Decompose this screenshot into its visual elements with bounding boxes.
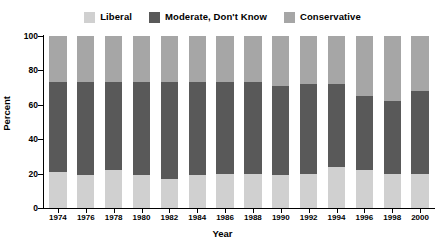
bar-1978 [105,36,122,208]
y-axis-tick [38,208,43,209]
bar-segment [189,82,206,175]
bar-segment [300,84,317,173]
y-axis-tick-labels: 020406080100 [4,0,38,251]
legend-item: Liberal [84,12,132,23]
bar-segment [161,36,178,82]
legend-swatch-icon [149,12,160,23]
stacked-bar-chart: LiberalModerate, Don't KnowConservative … [0,0,445,251]
y-axis-tick [38,105,43,106]
bar-segment [411,91,428,174]
bar-1982 [161,36,178,208]
bar-segment [189,175,206,208]
bar-segment [328,84,345,167]
y-axis-tick-label: 80 [8,66,38,75]
bar-segment [161,82,178,178]
bar-segment [356,170,373,208]
bar-segment [77,36,94,82]
y-axis-tick [38,36,43,37]
chart-legend: LiberalModerate, Don't KnowConservative [0,6,445,28]
bar-segment [356,36,373,96]
bar-segment [133,36,150,82]
bar-segment [216,36,233,82]
bar-1994 [328,36,345,208]
bar-segment [272,175,289,208]
bar-segment [105,36,122,82]
legend-item-label: Liberal [100,12,132,22]
bar-segment [300,174,317,208]
y-axis-tick-label: 40 [8,135,38,144]
bar-1998 [384,36,401,208]
bar-segment [49,82,66,171]
legend-swatch-icon [84,12,95,23]
bar-segment [272,36,289,86]
bar-segment [384,101,401,173]
bar-segment [49,36,66,82]
legend-item: Moderate, Don't Know [149,12,267,23]
bar-segment [189,36,206,82]
bar-1976 [77,36,94,208]
bar-segment [244,174,261,208]
bar-segment [300,36,317,84]
bar-segment [216,82,233,173]
y-axis-tick [38,70,43,71]
bar-segment [356,96,373,170]
bar-1996 [356,36,373,208]
legend-item: Conservative [284,12,361,23]
y-axis-tick [38,174,43,175]
bar-segment [161,179,178,208]
y-axis-tick [38,139,43,140]
bar-segment [133,82,150,175]
legend-item-label: Conservative [300,12,361,22]
bar-segment [105,170,122,208]
bar-segment [133,175,150,208]
plot-area [44,36,434,208]
bar-1980 [133,36,150,208]
bar-segment [105,82,122,170]
bar-segment [244,36,261,82]
bar-1986 [216,36,233,208]
x-axis-line [43,208,435,209]
bar-1988 [244,36,261,208]
bar-1974 [49,36,66,208]
bar-segment [216,174,233,208]
bar-1984 [189,36,206,208]
bar-segment [411,36,428,91]
bar-segment [77,175,94,208]
bar-segment [411,174,428,208]
bar-segment [49,172,66,208]
y-axis-tick-label: 60 [8,101,38,110]
x-axis-tick-label: 2000 [403,214,437,222]
bar-segment [328,167,345,208]
bar-segment [384,174,401,208]
y-axis-tick-label: 20 [8,170,38,179]
y-axis-tick-label: 100 [8,32,38,41]
x-axis-title: Year [0,229,445,239]
bar-segment [244,82,261,173]
bar-1990 [272,36,289,208]
bar-segment [77,82,94,175]
bar-segment [384,36,401,101]
bar-2000 [411,36,428,208]
legend-swatch-icon [284,12,295,23]
legend-item-label: Moderate, Don't Know [165,12,267,22]
bar-1992 [300,36,317,208]
bar-segment [272,86,289,175]
bar-segment [328,36,345,84]
y-axis-tick-label: 0 [8,204,38,213]
